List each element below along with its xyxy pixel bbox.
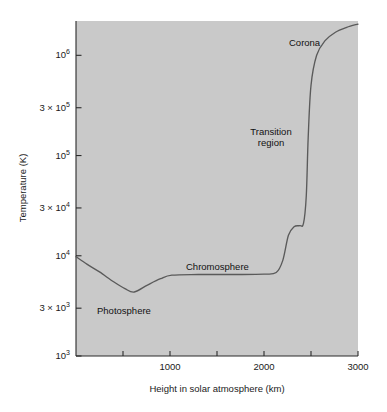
y-tick-label: 3 × 105	[0, 103, 70, 113]
y-tick-label: 104	[0, 251, 70, 261]
y-tick-label: 3 × 103	[0, 303, 70, 313]
y-axis-tick-marks	[76, 55, 82, 356]
annotation-transition-region-line2: region	[250, 138, 291, 149]
annotation-photosphere: Photosphere	[97, 306, 151, 317]
y-axis-title: Temperature (K)	[17, 154, 28, 223]
x-tick-label: 3000	[347, 362, 368, 372]
temperature-curve	[76, 24, 358, 292]
temperature-profile-chart: 1033 × 1031043 × 1041053 × 105106 100020…	[0, 0, 387, 412]
x-tick-label: 2000	[253, 362, 274, 372]
y-tick-label: 103	[0, 351, 70, 361]
y-tick-label: 106	[0, 51, 70, 61]
annotation-transition-region-line1: Transition	[250, 127, 291, 138]
x-axis-tick-marks	[123, 351, 358, 356]
y-tick-label: 105	[0, 151, 70, 161]
x-tick-label: 1000	[159, 362, 180, 372]
annotation-transition-region: Transition region	[250, 127, 291, 148]
x-axis-title: Height in solar atmosphere (km)	[149, 383, 284, 394]
annotation-chromosphere: Chromosphere	[186, 262, 249, 273]
y-tick-label: 3 × 104	[0, 203, 70, 213]
annotation-corona: Corona	[289, 38, 320, 49]
